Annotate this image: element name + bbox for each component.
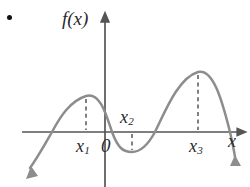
math-graph-figure: f(x) x1 0 x2 x3 x [0, 0, 250, 187]
function-label: f(x) [62, 9, 88, 28]
critical-point-label-x3-subscript: 3 [197, 144, 203, 156]
critical-point-label-x1: x1 [76, 137, 90, 157]
critical-point-label-x1-subscript: 1 [84, 144, 90, 156]
origin-label: 0 [101, 136, 111, 155]
graph-canvas [0, 0, 250, 187]
x-axis-label: x [228, 132, 236, 150]
critical-point-label-x2: x2 [120, 108, 134, 128]
critical-point-label-x2-subscript: 2 [128, 115, 134, 127]
curve-right-arrow-icon [230, 155, 241, 166]
critical-point-label-x3-base: x [189, 136, 197, 156]
critical-point-label-x2-base: x [120, 107, 128, 127]
critical-point-label-x3: x3 [189, 137, 203, 157]
critical-point-label-x1-base: x [76, 136, 84, 156]
curve-left-arrow-icon [26, 166, 38, 179]
